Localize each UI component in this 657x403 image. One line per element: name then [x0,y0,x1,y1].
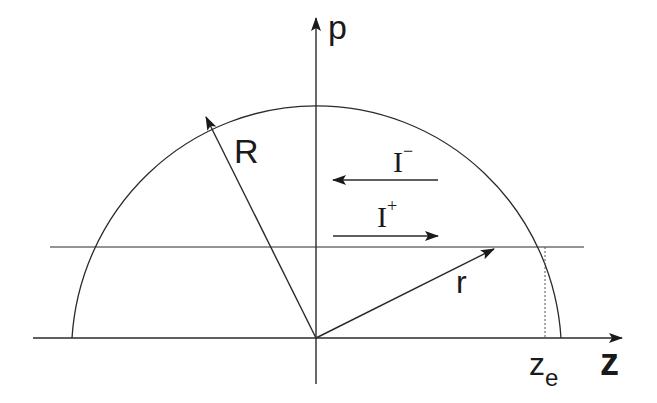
ze-base: z [529,346,545,382]
p-axis-label: p [328,10,347,44]
I-plus-base: I [377,200,387,233]
r-vector [316,249,494,338]
R-label: R [234,134,259,168]
I-minus-base: I [393,145,403,178]
r-label: r [456,266,467,298]
I-plus-label: I+ [377,201,397,232]
I-plus-sup: + [387,196,397,216]
R-vector [206,117,316,338]
ze-sub: e [545,364,558,391]
z-axis-label: z [600,343,619,381]
I-minus-sup: − [403,141,413,161]
I-minus-label: I− [393,146,413,177]
diagram-canvas [0,0,657,403]
ze-label: ze [529,348,558,386]
